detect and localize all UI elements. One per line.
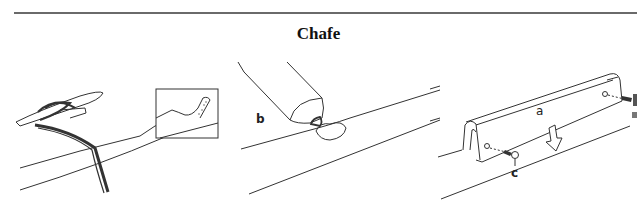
figure-label-a: a [536,104,543,118]
figure-label-c: c [511,166,518,180]
